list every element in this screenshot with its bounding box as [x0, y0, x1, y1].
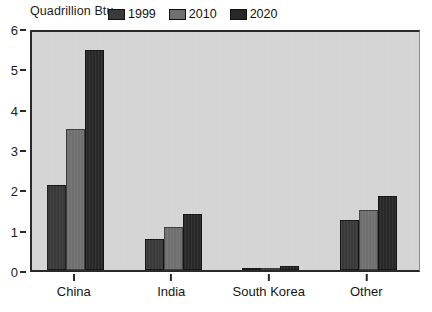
x-group-label-south-korea: South Korea	[233, 284, 305, 299]
y-tick-label-5: 5	[11, 63, 18, 78]
bar-chart-figure: Quadrillion Btu 199920102020 0123456 Chi…	[0, 0, 432, 312]
legend-label-2010: 2010	[189, 7, 217, 21]
y-tick-label-3: 3	[11, 144, 18, 159]
y-tick-mark-2	[20, 190, 26, 192]
bar-india-2010	[164, 227, 183, 270]
x-group-other: Other	[350, 274, 383, 299]
legend-item-2010: 2010	[169, 7, 217, 21]
legend-label-1999: 1999	[128, 7, 156, 21]
y-tick-mark-6	[20, 29, 26, 31]
y-tick-label-6: 6	[11, 23, 18, 38]
x-tick-mark-india	[170, 274, 172, 281]
legend-swatch-2010	[169, 9, 186, 20]
y-tick-label-1: 1	[11, 224, 18, 239]
x-tick-mark-china	[73, 274, 75, 281]
bar-india-1999	[145, 239, 164, 270]
y-tick-mark-0	[20, 271, 26, 273]
y-tick-label-2: 2	[11, 184, 18, 199]
legend-item-2020: 2020	[230, 7, 278, 21]
x-axis: ChinaIndiaSouth KoreaOther	[30, 274, 420, 310]
x-tick-mark-south-korea	[268, 274, 270, 281]
chart-title: Quadrillion Btu	[30, 4, 114, 18]
bar-south-korea-1999	[242, 268, 261, 270]
bar-india-2020	[183, 214, 202, 270]
plot-area	[30, 30, 420, 272]
bar-other-2020	[378, 196, 397, 270]
y-tick-mark-3	[20, 150, 26, 152]
x-group-label-india: India	[157, 284, 185, 299]
bar-group-china	[47, 32, 104, 270]
bar-china-2020	[85, 50, 104, 270]
bar-group-other	[340, 32, 397, 270]
bar-south-korea-2020	[280, 266, 299, 270]
x-group-label-china: China	[57, 284, 91, 299]
chart-legend: 199920102020	[108, 7, 277, 21]
legend-item-1999: 1999	[108, 7, 156, 21]
legend-swatch-1999	[108, 9, 125, 20]
y-tick-mark-4	[20, 110, 26, 112]
y-tick-label-4: 4	[11, 103, 18, 118]
y-tick-mark-1	[20, 231, 26, 233]
x-group-label-other: Other	[350, 284, 383, 299]
bar-china-1999	[47, 185, 66, 270]
bar-other-2010	[359, 210, 378, 270]
y-axis: 0123456	[0, 30, 26, 272]
x-group-china: China	[57, 274, 91, 299]
legend-swatch-2020	[230, 9, 247, 20]
bar-group-india	[145, 32, 202, 270]
bar-south-korea-2010	[261, 268, 280, 270]
bar-china-2010	[66, 129, 85, 270]
bar-group-south-korea	[242, 32, 299, 270]
y-tick-mark-5	[20, 69, 26, 71]
x-group-south-korea: South Korea	[233, 274, 305, 299]
x-group-india: India	[157, 274, 185, 299]
legend-label-2020: 2020	[250, 7, 278, 21]
bar-other-1999	[340, 220, 359, 270]
x-tick-mark-other	[365, 274, 367, 281]
y-tick-label-0: 0	[11, 265, 18, 280]
